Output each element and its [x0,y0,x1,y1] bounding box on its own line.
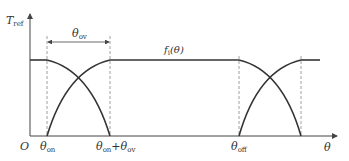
y-axis-label: Tref [6,14,25,28]
function-label: fi(θ) [163,44,184,57]
tick-label-theta-on-plus-ov: θon+θov [96,140,135,154]
overlap-label: θov [72,27,87,41]
diagram-canvas: Tref θov fi(θ) O θon θon+θov θoff θ [0,0,349,161]
tick-label-theta-off: θoff [231,140,248,154]
tick-label-theta-on: θon [40,140,56,154]
x-axis-label: θ [324,141,331,154]
origin-label: O [20,140,29,153]
profile-curves [30,60,320,136]
torque-profile-diagram: Tref θov fi(θ) O θon θon+θov θoff θ [0,0,349,161]
